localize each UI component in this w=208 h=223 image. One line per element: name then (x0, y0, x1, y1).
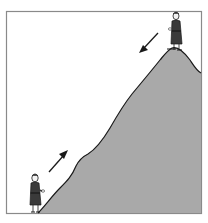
mountain-illustration (0, 0, 208, 223)
illustration-canvas (0, 0, 208, 223)
